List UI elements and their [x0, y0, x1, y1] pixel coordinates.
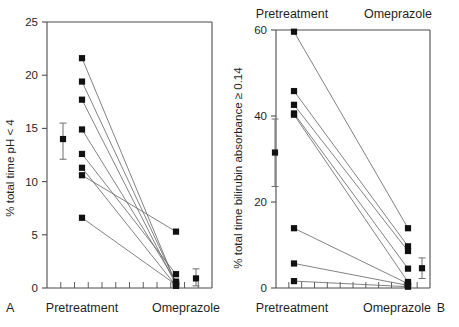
panel-a-mean-error-bars — [60, 123, 200, 286]
panel-b-y-tick-labels: 0204060 — [254, 24, 267, 294]
panel-a: 0510152025 % total time pH < 4 Pretreatm… — [0, 0, 229, 327]
connector-line — [294, 228, 408, 283]
y-tick-label: 10 — [25, 176, 38, 188]
figure-container: 0510152025 % total time pH < 4 Pretreatm… — [0, 0, 459, 327]
connector-line — [82, 218, 176, 285]
data-point — [173, 282, 179, 288]
data-point — [405, 248, 411, 254]
connector-line — [82, 175, 176, 231]
mean-marker — [419, 265, 425, 271]
connector-line — [294, 105, 408, 251]
panel-b-x-label-omeprazole: Omeprazole — [363, 301, 431, 315]
panel-b: 0204060 % total time bilirubin absorbanc… — [230, 0, 459, 327]
connector-line — [82, 82, 176, 283]
mean-marker — [60, 136, 66, 142]
panel-b-x-label-pretreatment: Pretreatment — [256, 301, 329, 315]
panel-b-y-axis-title: % total time bilirubin absorbance ≥ 0.14 — [232, 67, 244, 269]
data-point — [173, 229, 179, 235]
data-point — [79, 126, 85, 132]
panel-a-axes — [42, 22, 212, 288]
y-tick-label: 15 — [25, 122, 38, 134]
data-point — [79, 215, 85, 221]
data-point — [291, 102, 297, 108]
data-point — [79, 172, 85, 178]
data-point — [79, 151, 85, 157]
data-point — [291, 225, 297, 231]
y-tick-label: 60 — [254, 24, 267, 36]
connector-line — [82, 100, 176, 285]
data-point — [291, 88, 297, 94]
connector-line — [82, 168, 176, 286]
y-tick-label: 5 — [32, 229, 38, 241]
panel-a-y-axis-title: % total time pH < 4 — [4, 119, 16, 217]
panel-b-top-label-omeprazole: Omeprazole — [364, 7, 432, 21]
panel-a-plot: 0510152025 % total time pH < 4 Pretreatm… — [0, 0, 229, 327]
data-point — [79, 97, 85, 103]
connector-line — [82, 58, 176, 284]
data-point — [79, 55, 85, 61]
y-tick-label: 20 — [25, 69, 38, 81]
data-point — [405, 266, 411, 272]
data-point — [291, 278, 297, 284]
panel-b-connector-lines — [294, 32, 408, 287]
data-point — [405, 225, 411, 231]
panel-a-letter: A — [6, 301, 15, 315]
y-tick-label: 40 — [254, 110, 267, 122]
data-point — [79, 165, 85, 171]
mean-marker — [193, 275, 199, 281]
mean-marker — [272, 149, 278, 155]
panel-b-data-points — [291, 29, 411, 290]
y-tick-label: 20 — [254, 196, 267, 208]
connector-line — [294, 91, 408, 246]
y-tick-label: 0 — [261, 282, 267, 294]
y-tick-label: 0 — [32, 282, 38, 294]
data-point — [79, 78, 85, 84]
panel-a-y-tick-labels: 0510152025 — [25, 16, 38, 294]
connector-line — [82, 129, 176, 281]
panel-a-x-label-pretreatment: Pretreatment — [46, 301, 119, 315]
panel-a-x-label-omeprazole: Omeprazole — [152, 301, 220, 315]
panel-b-letter: B — [437, 301, 445, 315]
panel-a-connector-lines — [82, 58, 176, 286]
y-tick-label: 25 — [25, 16, 38, 28]
data-point — [291, 260, 297, 266]
data-point — [405, 284, 411, 290]
data-point — [291, 29, 297, 35]
data-point — [291, 112, 297, 118]
panel-b-top-label-pretreatment: Pretreatment — [256, 7, 329, 21]
data-point — [173, 271, 179, 277]
panel-b-plot: 0204060 % total time bilirubin absorbanc… — [230, 0, 459, 327]
connector-line — [294, 113, 408, 268]
